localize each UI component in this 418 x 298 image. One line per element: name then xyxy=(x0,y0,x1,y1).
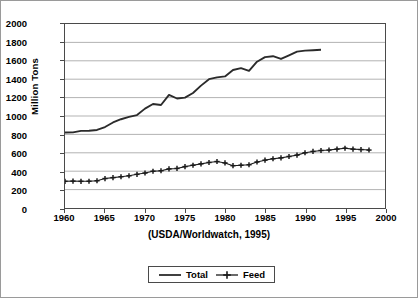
legend-item-total: Total xyxy=(158,269,208,280)
y-axis-title: Million Tons xyxy=(29,52,40,122)
legend-label-feed: Feed xyxy=(243,269,265,280)
x-tick-label-1975: 1975 xyxy=(165,212,205,223)
y-tick-label-600: 600 xyxy=(0,148,27,159)
x-tick-mark-1965 xyxy=(104,209,105,213)
x-tick-label-1990: 1990 xyxy=(286,212,326,223)
y-tick-label-2000: 2000 xyxy=(0,18,27,29)
x-tick-mark-1975 xyxy=(185,209,186,213)
plot-area xyxy=(64,23,386,209)
x-tick-label-1965: 1965 xyxy=(84,212,124,223)
y-tick-label-200: 200 xyxy=(0,185,27,196)
x-tick-label-2000: 2000 xyxy=(366,212,406,223)
x-axis-caption: (USDA/Worldwatch, 1995) xyxy=(1,229,417,240)
y-tick-label-800: 800 xyxy=(0,129,27,140)
x-tick-label-1980: 1980 xyxy=(205,212,245,223)
x-tick-mark-1985 xyxy=(265,209,266,213)
x-tick-label-1995: 1995 xyxy=(326,212,366,223)
y-tick-label-1600: 1600 xyxy=(0,55,27,66)
y-tick-label-0: 0 xyxy=(0,204,27,215)
legend-line-plus-swatch xyxy=(215,270,239,280)
chart-legend: Total Feed xyxy=(148,266,275,283)
x-tick-mark-1995 xyxy=(346,209,347,213)
x-tick-mark-1980 xyxy=(225,209,226,213)
y-tick-label-1400: 1400 xyxy=(0,73,27,84)
legend-item-feed: Feed xyxy=(215,269,265,280)
x-tick-mark-1960 xyxy=(64,209,65,213)
chart-figure: Million Tons 020040060080010001200140016… xyxy=(0,0,418,298)
x-tick-mark-2000 xyxy=(386,209,387,213)
y-tick-label-400: 400 xyxy=(0,166,27,177)
x-tick-label-1970: 1970 xyxy=(125,212,165,223)
x-tick-label-1960: 1960 xyxy=(44,212,84,223)
x-tick-mark-1970 xyxy=(145,209,146,213)
legend-label-total: Total xyxy=(186,269,208,280)
y-tick-label-1000: 1000 xyxy=(0,111,27,122)
y-tick-label-1800: 1800 xyxy=(0,36,27,47)
x-tick-label-1985: 1985 xyxy=(245,212,285,223)
x-tick-mark-1990 xyxy=(306,209,307,213)
legend-line-swatch xyxy=(158,270,182,280)
data-series-layer xyxy=(65,24,385,208)
y-tick-label-1200: 1200 xyxy=(0,92,27,103)
